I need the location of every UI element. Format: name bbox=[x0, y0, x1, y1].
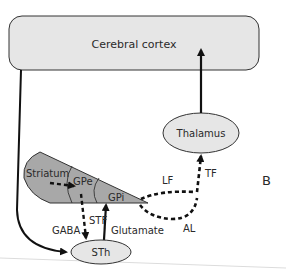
al-label: AL bbox=[183, 223, 196, 234]
cerebral-cortex-node: Cerebral cortex bbox=[9, 16, 259, 70]
thalamus-node: Thalamus bbox=[163, 113, 239, 153]
striatum-label: Striatum bbox=[26, 168, 69, 179]
page-edge-line bbox=[0, 258, 286, 268]
lf-pathway bbox=[141, 192, 195, 199]
stf-label: STF bbox=[89, 215, 107, 226]
tf-pathway bbox=[197, 156, 201, 192]
gpi-label: GPi bbox=[108, 192, 124, 203]
basal-ganglia-diagram: Cerebral cortex Thalamus Striatum GPe GP… bbox=[0, 0, 286, 278]
lf-label: LF bbox=[162, 175, 174, 186]
panel-label: B bbox=[262, 173, 271, 188]
sth-node: STh bbox=[71, 240, 131, 264]
gaba-label: GABA bbox=[52, 225, 80, 236]
glutamate-label: Glutamate bbox=[111, 225, 164, 236]
gpe-label: GPe bbox=[73, 176, 93, 187]
al-pathway bbox=[140, 198, 197, 219]
basal-ganglia-wedge: Striatum GPe GPi bbox=[24, 152, 148, 203]
sth-label: STh bbox=[92, 247, 111, 258]
tf-label: TF bbox=[204, 168, 217, 179]
thalamus-label: Thalamus bbox=[176, 128, 226, 139]
cerebral-cortex-label: Cerebral cortex bbox=[92, 38, 177, 51]
